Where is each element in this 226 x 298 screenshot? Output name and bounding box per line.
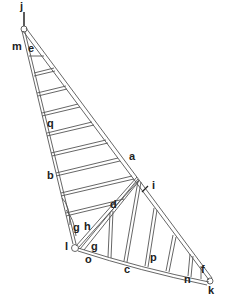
label-n: n: [184, 274, 191, 285]
label-f: f: [201, 264, 205, 275]
label-j: j: [20, 1, 23, 12]
label-c: c: [124, 264, 130, 275]
label-a: a: [129, 151, 135, 162]
label-l: l: [65, 241, 68, 252]
label-m: m: [12, 41, 22, 52]
tack-ring: [72, 245, 79, 252]
label-b: b: [47, 170, 54, 181]
label-i: i: [152, 180, 155, 191]
label-k: k: [208, 285, 214, 296]
label-g1: g: [73, 222, 80, 233]
label-d: d: [110, 199, 117, 210]
luff-outer: [22, 31, 73, 244]
label-o: o: [85, 254, 92, 265]
label-e: e: [28, 43, 34, 54]
label-p: p: [150, 252, 157, 263]
label-h: h: [84, 221, 91, 232]
label-g2: g: [91, 241, 98, 252]
sail-diagram: j m e q a b i d g h l g o p c f n k: [0, 0, 226, 298]
label-q: q: [47, 118, 54, 129]
